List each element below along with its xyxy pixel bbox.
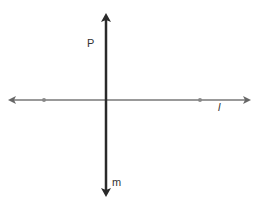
line-m xyxy=(101,13,111,197)
point-on-l-left xyxy=(42,98,46,102)
point-on-l-right xyxy=(198,98,202,102)
diagram-canvas xyxy=(0,0,262,210)
label-point-p: P xyxy=(87,38,94,49)
label-line-m: m xyxy=(112,177,121,188)
label-line-l: l xyxy=(218,102,220,113)
